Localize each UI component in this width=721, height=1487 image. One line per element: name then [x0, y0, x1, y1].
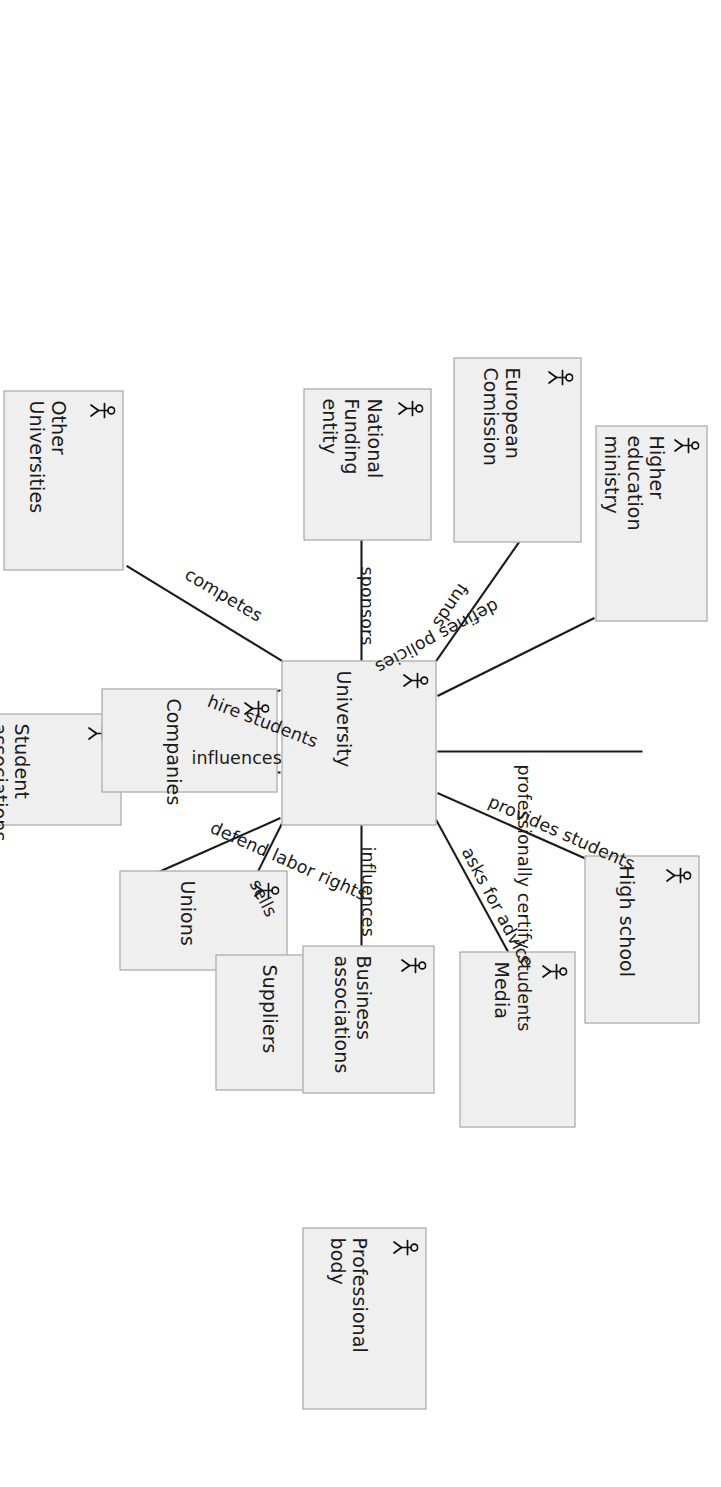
actor-stick-figure-icon — [547, 367, 573, 387]
node-high-school[interactable]: High school — [584, 855, 699, 1023]
actor-stick-figure-icon — [397, 398, 423, 418]
node-national-funding-entity[interactable]: National Funding entity — [303, 388, 431, 540]
diagram-stage: University Student associations — [0, 0, 721, 1487]
node-label: National Funding entity — [311, 398, 391, 530]
node-label: Other Universities — [11, 400, 83, 560]
node-label: Suppliers — [223, 964, 315, 1080]
node-label: Higher education ministry — [600, 435, 667, 611]
actor-stick-figure-icon — [402, 670, 428, 690]
actor-stick-figure-icon — [400, 955, 426, 975]
node-other-universities[interactable]: Other Universities — [3, 390, 123, 570]
actor-stick-figure-icon — [89, 400, 115, 420]
edge-label-influences-student: influences — [191, 747, 281, 767]
node-business-associations[interactable]: Business associations — [302, 945, 434, 1093]
node-label: Business associations — [310, 955, 394, 1083]
actor-stick-figure-icon — [665, 865, 691, 885]
actor-stick-figure-icon — [673, 435, 699, 455]
edge-label-influences-business: influences — [357, 846, 377, 936]
node-label: Student associations — [0, 723, 81, 815]
node-label: High school — [592, 865, 659, 1013]
node-label: Professional body — [310, 1237, 386, 1399]
actor-stick-figure-icon — [541, 961, 567, 981]
node-professional-body[interactable]: Professional body — [302, 1227, 426, 1409]
node-european-comission[interactable]: European Comission — [453, 357, 581, 542]
node-companies[interactable]: Companies — [101, 688, 277, 792]
edge-label-sponsors: sponsors — [356, 566, 376, 645]
actor-stick-figure-icon — [392, 1237, 418, 1257]
node-label: Unions — [127, 880, 247, 960]
node-label: European Comission — [461, 367, 541, 532]
node-higher-education-ministry[interactable]: Higher education ministry — [595, 425, 707, 621]
diagram-canvas: University Student associations — [0, 0, 721, 1487]
